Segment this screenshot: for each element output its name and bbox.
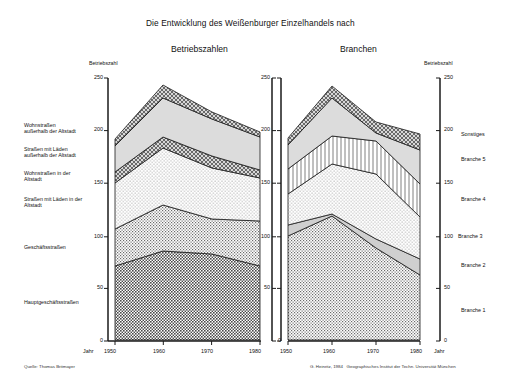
left-label-strassen-mit-laeden-altstadt: Straßen mit Läden in der Altstadt [24, 196, 82, 209]
right-label-sonstiges: Sonstiges [461, 131, 485, 138]
right-xtick-1980: 1980 [410, 348, 422, 355]
left-xtick-1980: 1980 [249, 348, 261, 355]
right-ytick-0: 0 [444, 337, 447, 344]
left-xtick-1960: 1960 [153, 348, 165, 355]
mid-ytick-0: 0 [278, 337, 281, 344]
right-xtick-1960: 1960 [323, 348, 335, 355]
mid-ytick-50: 50 [264, 284, 270, 291]
mid-ytick-150: 150 [261, 179, 270, 186]
right-label-branche-2: Branche 2 [461, 262, 486, 269]
right-chart-areas [288, 86, 420, 340]
left-y-axis-title: Betriebszahl [89, 60, 118, 66]
left-ytick-150: 150 [85, 179, 103, 186]
right-xtick-1950: 1950 [280, 348, 292, 355]
left-ytick-100: 100 [85, 233, 103, 240]
right-label-branche-3: Branche 3 [458, 233, 483, 240]
right-chart-title: Branchen [340, 44, 377, 54]
right-x-axis-title: Jahr [434, 348, 445, 355]
right-ytick-50: 50 [444, 284, 450, 291]
left-label-hauptgeschaeftsstrassen: Hauptgeschäftsstraßen [24, 299, 79, 305]
left-ytick-50: 50 [88, 284, 103, 291]
chart-canvas [0, 0, 510, 385]
right-ytick-250: 250 [444, 74, 453, 81]
page-title: Die Entwicklung des Weißenburger Einzelh… [146, 18, 355, 28]
figure-root: Die Entwicklung des Weißenburger Einzelh… [0, 0, 510, 385]
left-label-wohnstrassen-altstadt: Wohnstraßen in der Altstadt [24, 170, 70, 183]
left-label-strassen-mit-laeden-ausserhalb: Straßen mit Läden außerhalb der Altstadt [24, 146, 76, 159]
mid-ytick-200: 200 [261, 126, 270, 133]
right-ytick-100: 100 [444, 233, 453, 240]
left-xtick-1970: 1970 [201, 348, 213, 355]
author-credit: G. Heinritz, 1984 Geographisches Institu… [310, 364, 456, 369]
mid-ytick-100: 100 [261, 233, 270, 240]
right-label-branche-4: Branche 4 [461, 196, 486, 203]
left-ytick-200: 200 [85, 126, 103, 133]
mid-ytick-250: 250 [261, 74, 270, 81]
right-xtick-1970: 1970 [367, 348, 379, 355]
left-label-wohnstrassen-ausserhalb: Wohnstraßen außerhalb der Altstadt [24, 122, 76, 135]
right-label-branche-1: Branche 1 [461, 307, 486, 314]
left-chart-title: Betriebszahlen [171, 44, 228, 54]
source-credit: Quelle: Thomas Britmayer [24, 364, 75, 369]
left-label-geschaeftsstrassen: Geschäftsstraßen [24, 244, 66, 250]
left-x-axis-title: Jahr [83, 348, 94, 355]
left-ytick-0: 0 [95, 337, 103, 344]
left-chart-areas [115, 85, 260, 340]
left-xtick-1950: 1950 [104, 348, 116, 355]
right-y-axis-title: Betriebszahl [424, 60, 453, 66]
left-ytick-250: 250 [85, 74, 103, 81]
right-ytick-200: 200 [444, 126, 453, 133]
area-hauptgeschaeftsstrassen [115, 251, 260, 340]
right-label-branche-5: Branche 5 [461, 156, 486, 163]
right-ytick-150: 150 [444, 179, 453, 186]
